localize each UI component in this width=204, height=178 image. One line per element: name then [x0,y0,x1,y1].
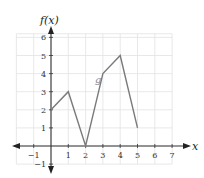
x-tick-label: 1 [66,151,71,160]
x-tick-label: 5 [135,151,140,160]
grid [16,34,172,164]
series [51,56,138,147]
series-label-g: g [95,74,101,85]
x-tick-label: 4 [118,151,123,160]
x-tick-label: 3 [100,151,105,160]
x-tick-label: 7 [170,151,175,160]
y-tick-label: 2 [41,106,46,115]
series-line-g [51,56,138,147]
x-tick-label: 2 [83,151,88,160]
arrow-up-icon [48,26,54,34]
chart: −11234567−1123456 f(x) x g [0,0,204,178]
y-tick-label: 3 [41,88,46,97]
y-axis-title: f(x) [39,14,59,27]
y-tick-label: 6 [41,33,46,42]
arrow-right-icon [183,143,191,149]
x-axis-title: x [192,140,199,153]
tick-labels: −11234567−1123456 [28,33,175,169]
y-tick-label: 1 [41,124,46,133]
x-tick-label: −1 [28,151,40,160]
y-tick-label: −1 [34,160,46,169]
x-tick-label: 6 [152,151,157,160]
y-tick-label: 4 [41,70,46,79]
arrow-down-icon [48,166,54,174]
y-tick-label: 5 [41,52,46,61]
